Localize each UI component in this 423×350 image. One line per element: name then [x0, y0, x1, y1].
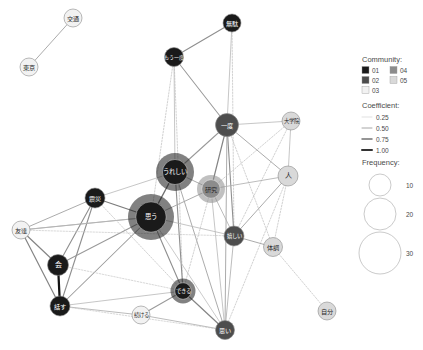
graph-edge [141, 315, 225, 330]
legend-community-swatch [390, 67, 397, 74]
legend-frequency-label: 20 [406, 211, 414, 218]
legend-frequency-circle [369, 174, 391, 196]
legend-community-label: 04 [400, 67, 408, 74]
network-graph-canvas: 交通東京無駄もう一度一度大学院人うれしい研究思う震災友達嬉しい体調会話すできる続… [0, 0, 423, 350]
graph-edge [29, 18, 73, 67]
node-layer: 交通東京無駄もう一度一度大学院人うれしい研究思う震災友達嬉しい体調会話すできる続… [12, 9, 336, 340]
graph-edge [227, 125, 288, 176]
graph-node[interactable]: 体調 [264, 238, 283, 257]
legend-coefficient-title: Coefficient: [362, 101, 399, 110]
legend-community-swatch [390, 77, 397, 84]
legend-frequency-circle [364, 198, 396, 230]
legend-panel: Community:0102030405Coefficient:0.250.50… [359, 55, 414, 274]
legend-frequency-circle [359, 232, 401, 274]
legend-community-title: Community: [362, 55, 402, 64]
graph-node[interactable]: もう一度 [164, 48, 184, 67]
graph-edge [273, 176, 288, 247]
graph-node[interactable]: 自分 [318, 302, 336, 320]
graph-node[interactable]: 一度 [216, 114, 239, 137]
graph-node[interactable]: 会 [48, 255, 69, 276]
graph-node[interactable]: 友達 [12, 221, 30, 239]
legend-community-label: 01 [372, 67, 380, 74]
graph-node[interactable]: 大学院 [282, 112, 300, 130]
graph-edge [151, 57, 174, 217]
graph-node[interactable]: 話す [50, 296, 70, 316]
legend-community-label: 02 [372, 77, 380, 84]
graph-edge [60, 291, 183, 306]
graph-node[interactable]: 思い [216, 321, 235, 340]
graph-node[interactable]: 研究 [197, 175, 225, 203]
graph-edge [225, 236, 234, 330]
legend-community-swatch [362, 77, 369, 84]
graph-edge [174, 57, 227, 125]
graph-node[interactable]: 思う [128, 194, 174, 240]
legend-coefficient-label: 0.75 [376, 136, 389, 143]
legend-community-swatch [362, 67, 369, 74]
graph-node[interactable]: 無駄 [223, 14, 241, 32]
graph-edge [225, 125, 227, 330]
legend-coefficient-label: 0.50 [376, 125, 389, 132]
legend-community-label: 03 [372, 87, 380, 94]
legend-coefficient-label: 1.00 [376, 147, 389, 154]
network-graph-svg[interactable]: 交通東京無駄もう一度一度大学院人うれしい研究思う震災友達嬉しい体調会話すできる続… [0, 0, 423, 350]
legend-frequency-title: Frequency: [362, 158, 400, 167]
graph-edge [273, 247, 327, 311]
legend-frequency-label: 30 [406, 250, 414, 257]
graph-node[interactable]: 交通 [64, 9, 82, 27]
graph-edge [227, 23, 232, 125]
graph-edge [21, 230, 234, 236]
graph-edge [60, 306, 141, 315]
graph-node[interactable]: 東京 [20, 58, 38, 76]
legend-community-label: 05 [400, 77, 408, 84]
graph-edge [234, 176, 288, 236]
graph-edge [21, 198, 95, 230]
graph-node[interactable]: うれしい [156, 153, 194, 191]
graph-edge [174, 23, 232, 57]
legend-community-swatch [362, 87, 369, 94]
graph-node[interactable]: 続ける [132, 306, 150, 324]
graph-node[interactable]: 震災 [85, 188, 105, 208]
legend-coefficient-label: 0.25 [376, 114, 389, 121]
legend-frequency-label: 10 [406, 182, 414, 189]
graph-node[interactable]: できる [171, 279, 196, 304]
graph-node[interactable]: 人 [278, 166, 298, 186]
graph-edge [58, 265, 183, 291]
graph-node[interactable]: 嬉しい [224, 226, 244, 246]
